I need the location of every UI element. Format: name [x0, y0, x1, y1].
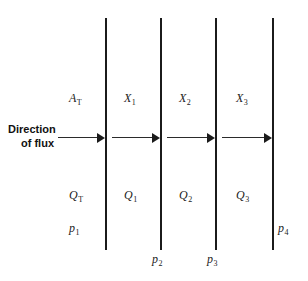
wall-line-1	[105, 18, 107, 250]
area-label-at: AT	[69, 92, 81, 104]
thickness-symbol: X	[236, 91, 243, 105]
thickness-subscript: 2	[187, 98, 191, 107]
pressure-label-p1: p1	[69, 222, 79, 234]
arrow-shaft	[222, 137, 265, 138]
pressure-label-p3: p3	[207, 253, 217, 265]
thickness-label-x2: X2	[179, 92, 190, 104]
thickness-label-x1: X1	[124, 92, 135, 104]
thickness-label-x3: X3	[236, 92, 247, 104]
pressure-symbol: p	[152, 252, 158, 266]
arrow-head-icon	[152, 133, 160, 143]
wall-line-3	[215, 18, 217, 250]
arrow-head-icon	[264, 133, 272, 143]
flow-symbol: Q	[236, 188, 245, 202]
flow-subscript: 3	[245, 195, 249, 204]
flux-arrow-2	[112, 133, 160, 143]
pressure-subscript: 2	[159, 259, 163, 268]
pressure-subscript: 4	[285, 228, 289, 237]
flow-symbol: Q	[124, 188, 133, 202]
flux-arrow-1	[58, 133, 105, 143]
pressure-symbol: p	[207, 252, 213, 266]
pressure-symbol: p	[278, 221, 284, 235]
pressure-subscript: 1	[76, 228, 80, 237]
flow-subscript: 2	[188, 195, 192, 204]
area-symbol: A	[69, 91, 76, 105]
arrow-head-icon	[97, 133, 105, 143]
thickness-subscript: 3	[244, 98, 248, 107]
area-subscript: T	[77, 98, 82, 107]
flux-diagram: Direction of flux AT X1 X2 X3 QT Q1 Q2 Q…	[0, 0, 308, 281]
flow-symbol: Q	[69, 188, 78, 202]
wall-line-2	[160, 18, 162, 250]
thickness-subscript: 1	[132, 98, 136, 107]
arrow-head-icon	[207, 133, 215, 143]
flow-label-q1: Q1	[124, 189, 137, 201]
flux-caption-line-1: Direction	[8, 124, 54, 135]
wall-line-4	[272, 18, 274, 250]
flux-caption-line-2: of flux	[8, 138, 54, 149]
pressure-label-p2: p2	[152, 253, 162, 265]
arrow-shaft	[112, 137, 153, 138]
flow-subscript: 1	[133, 195, 137, 204]
pressure-symbol: p	[69, 221, 75, 235]
thickness-symbol: X	[179, 91, 186, 105]
flow-label-q3: Q3	[236, 189, 249, 201]
flux-arrow-4	[222, 133, 272, 143]
flow-symbol: Q	[179, 188, 188, 202]
flow-label-q2: Q2	[179, 189, 192, 201]
flux-arrow-3	[167, 133, 215, 143]
flux-direction-caption: Direction of flux	[8, 124, 54, 149]
arrow-shaft	[167, 137, 208, 138]
flow-subscript: T	[78, 195, 83, 204]
thickness-symbol: X	[124, 91, 131, 105]
flow-label-qt: QT	[69, 189, 83, 201]
pressure-label-p4: p4	[278, 222, 288, 234]
arrow-shaft	[58, 137, 98, 138]
pressure-subscript: 3	[214, 259, 218, 268]
